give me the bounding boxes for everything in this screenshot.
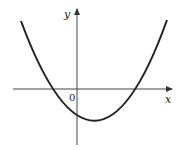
y-axis-label: y	[63, 8, 71, 21]
x-axis-label: x	[165, 93, 172, 106]
parabola-diagram: y x 0	[0, 0, 182, 150]
parabola-curve	[21, 20, 167, 121]
origin-label: 0	[69, 92, 75, 103]
